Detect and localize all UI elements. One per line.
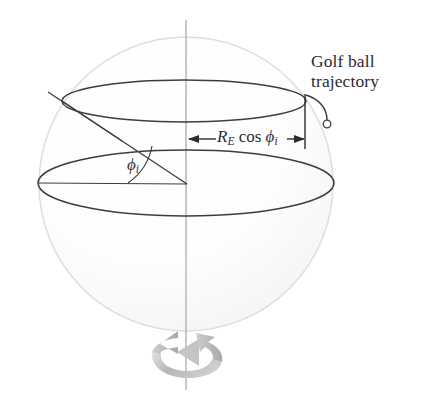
cos-operator: cos — [239, 127, 262, 146]
subscript-i: i — [274, 135, 277, 147]
golf-ball-label-line1: Golf ball — [311, 52, 379, 72]
rotation-direction-arrow — [152, 331, 223, 378]
angle-symbol-phi: ϕ — [127, 155, 136, 174]
golf-ball-icon — [323, 120, 331, 128]
angle-subscript-i: i — [136, 163, 139, 175]
symbol-R: R — [217, 127, 227, 146]
golf-ball-label-line2: trajectory — [311, 72, 379, 92]
radius-dimension-label: RE cos ϕi — [217, 127, 278, 148]
golf-ball-trajectory-label: Golf ball trajectory — [311, 52, 379, 91]
phi-angle-label: ϕi — [127, 155, 139, 176]
